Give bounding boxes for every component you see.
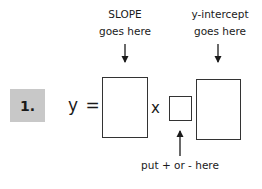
arrow-down-slope-icon <box>120 44 130 64</box>
intercept-caption: y-intercept goes here <box>180 6 260 40</box>
problem-number-badge: 1. <box>10 89 45 122</box>
arrow-up-sign-icon <box>175 129 185 157</box>
slope-caption-line2: goes here <box>90 23 160 40</box>
slope-caption-line1: SLOPE <box>90 6 160 23</box>
operator-x: x <box>151 99 160 117</box>
slope-caption: SLOPE goes here <box>90 6 160 40</box>
problem-number: 1. <box>20 98 35 114</box>
arrow-down-intercept-icon <box>213 44 223 64</box>
equation-lhs: y = <box>68 95 101 115</box>
intercept-caption-line2: goes here <box>180 23 260 40</box>
intercept-caption-line1: y-intercept <box>180 6 260 23</box>
intercept-input-box[interactable] <box>196 79 241 140</box>
sign-input-box[interactable] <box>169 96 192 121</box>
slope-input-box[interactable] <box>102 77 148 138</box>
sign-caption: put + or - here <box>125 157 235 174</box>
